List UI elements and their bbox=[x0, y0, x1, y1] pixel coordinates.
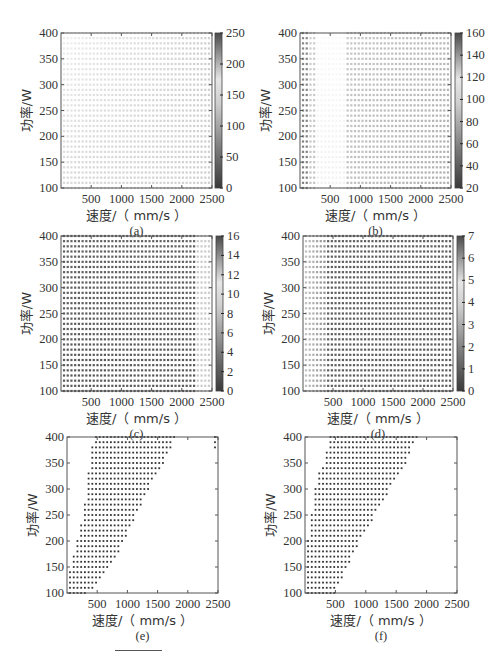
y-tick-label: 100 bbox=[45, 586, 64, 600]
x-tick-label: 500 bbox=[324, 395, 343, 409]
y-tick-label: 300 bbox=[39, 78, 58, 92]
y-tick-label: 100 bbox=[39, 181, 58, 195]
x-tick-label: 1500 bbox=[378, 192, 403, 206]
colorbar-tick-label: 5 bbox=[468, 273, 474, 287]
panel-a-heatmap: 1001502002503003504005001000150020002500… bbox=[19, 26, 245, 238]
data-points bbox=[63, 32, 210, 189]
panel-d-heatmap: 1001502002503003504005001000150020002500… bbox=[261, 229, 475, 441]
colorbar-tick-label: 60 bbox=[466, 137, 479, 151]
x-tick-label: 1000 bbox=[353, 597, 378, 611]
panel-c-heatmap: 1001502002503003504005001000150020002500… bbox=[19, 229, 240, 441]
colorbar-tick-label: 7 bbox=[468, 229, 474, 243]
colorbar-tick-label: 50 bbox=[226, 150, 239, 164]
x-axis-label: 速度/（ mm/s ） bbox=[330, 613, 431, 628]
footnote-rule bbox=[115, 650, 162, 651]
x-tick-label: 1000 bbox=[109, 395, 134, 409]
x-tick-label: 1500 bbox=[384, 597, 409, 611]
y-axis-label: 功率/W bbox=[25, 493, 40, 536]
y-tick-label: 200 bbox=[278, 129, 297, 143]
colorbar-tick-label: 2 bbox=[227, 365, 233, 379]
colorbar-tick-label: 100 bbox=[466, 92, 485, 106]
y-tick-label: 250 bbox=[281, 307, 300, 321]
data-points bbox=[69, 436, 216, 594]
colorbar-tick-label: 0 bbox=[226, 181, 232, 195]
colorbar bbox=[457, 236, 464, 391]
x-axis-label: 速度/（ mm/s ） bbox=[86, 411, 187, 426]
x-tick-label: 1000 bbox=[348, 192, 373, 206]
axes-frame bbox=[67, 437, 218, 593]
y-tick-label: 200 bbox=[39, 129, 58, 143]
y-tick-label: 350 bbox=[283, 456, 302, 470]
y-tick-label: 150 bbox=[39, 155, 58, 169]
y-tick-label: 100 bbox=[278, 181, 297, 195]
panel-label: (e) bbox=[136, 629, 150, 643]
y-tick-label: 400 bbox=[39, 229, 58, 243]
y-tick-label: 150 bbox=[283, 560, 302, 574]
x-tick-label: 2500 bbox=[445, 597, 470, 611]
x-tick-label: 2000 bbox=[414, 597, 439, 611]
colorbar-tick-label: 140 bbox=[466, 48, 485, 62]
y-tick-label: 150 bbox=[39, 358, 58, 372]
panel-label: (f) bbox=[375, 629, 388, 643]
x-tick-label: 2500 bbox=[439, 192, 464, 206]
colorbar-tick-label: 0 bbox=[227, 384, 233, 398]
colorbar-tick-label: 120 bbox=[466, 70, 485, 84]
panel-e-scatter: 1001502002503003504005001000150020002500… bbox=[25, 430, 231, 643]
y-tick-label: 300 bbox=[278, 78, 297, 92]
colorbar bbox=[215, 33, 222, 188]
y-tick-label: 100 bbox=[39, 384, 58, 398]
colorbar-tick-label: 250 bbox=[226, 26, 245, 40]
y-tick-label: 350 bbox=[278, 52, 297, 66]
colorbar-tick-label: 200 bbox=[226, 57, 245, 71]
x-tick-label: 1500 bbox=[381, 395, 406, 409]
colorbar-tick-label: 6 bbox=[227, 326, 233, 340]
y-tick-label: 150 bbox=[278, 155, 297, 169]
colorbar-tick-label: 20 bbox=[466, 181, 479, 195]
y-tick-label: 400 bbox=[281, 229, 300, 243]
y-tick-label: 400 bbox=[39, 26, 58, 40]
y-tick-label: 400 bbox=[278, 26, 297, 40]
colorbar bbox=[455, 33, 462, 188]
x-tick-label: 2500 bbox=[200, 395, 225, 409]
y-tick-label: 100 bbox=[281, 384, 300, 398]
y-tick-label: 200 bbox=[283, 534, 302, 548]
data-points bbox=[63, 235, 210, 392]
y-tick-label: 350 bbox=[39, 255, 58, 269]
colorbar-tick-label: 16 bbox=[227, 229, 240, 243]
y-axis-label: 功率/W bbox=[261, 292, 276, 335]
y-tick-label: 250 bbox=[39, 104, 58, 118]
y-tick-label: 400 bbox=[45, 430, 64, 444]
x-axis-label: 速度/（ mm/s ） bbox=[327, 411, 428, 426]
x-tick-label: 1000 bbox=[115, 597, 140, 611]
y-tick-label: 350 bbox=[45, 456, 64, 470]
colorbar-tick-label: 8 bbox=[227, 307, 233, 321]
x-tick-label: 2000 bbox=[169, 192, 194, 206]
y-tick-label: 100 bbox=[283, 586, 302, 600]
x-tick-label: 2500 bbox=[441, 395, 466, 409]
data-points bbox=[307, 436, 417, 594]
data-points bbox=[305, 235, 451, 392]
x-tick-label: 1500 bbox=[145, 597, 170, 611]
colorbar-tick-label: 80 bbox=[466, 115, 479, 129]
y-tick-label: 350 bbox=[281, 255, 300, 269]
y-tick-label: 300 bbox=[45, 482, 64, 496]
axes-frame bbox=[305, 437, 457, 593]
x-tick-label: 2000 bbox=[169, 395, 194, 409]
y-tick-label: 300 bbox=[283, 482, 302, 496]
y-tick-label: 300 bbox=[281, 281, 300, 295]
x-tick-label: 1500 bbox=[139, 395, 164, 409]
x-tick-label: 2000 bbox=[408, 192, 433, 206]
colorbar-tick-label: 0 bbox=[468, 384, 474, 398]
x-tick-label: 2500 bbox=[206, 597, 231, 611]
y-tick-label: 250 bbox=[45, 508, 64, 522]
y-tick-label: 400 bbox=[283, 430, 302, 444]
y-tick-label: 200 bbox=[39, 332, 58, 346]
colorbar-tick-label: 6 bbox=[468, 251, 474, 265]
y-tick-label: 150 bbox=[281, 358, 300, 372]
colorbar-tick-label: 10 bbox=[227, 287, 240, 301]
x-tick-label: 2000 bbox=[411, 395, 436, 409]
colorbar-tick-label: 4 bbox=[468, 295, 475, 309]
colorbar-tick-label: 14 bbox=[227, 248, 240, 262]
y-tick-label: 200 bbox=[281, 332, 300, 346]
y-tick-label: 250 bbox=[278, 104, 297, 118]
